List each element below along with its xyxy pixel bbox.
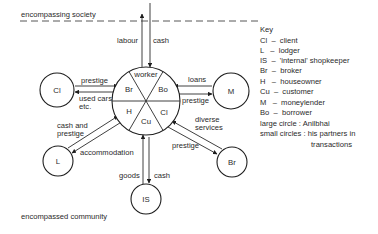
node-lodger: L xyxy=(43,146,73,176)
cash-society-label: cash xyxy=(153,36,169,45)
svg-text:Br: Br xyxy=(228,158,236,167)
diagram-key: Key Cl – client L – lodger IS – 'interna… xyxy=(260,25,355,149)
key-entry: Br – broker xyxy=(260,66,302,75)
key-entry: M – moneylender xyxy=(260,98,325,107)
node-moneylender: M xyxy=(213,73,249,109)
segment-br: Br xyxy=(125,85,133,94)
key-entry: small circles : his partners in xyxy=(260,129,355,138)
accommodation-label: accommodation xyxy=(80,148,134,157)
key-entry: Cl – client xyxy=(260,36,298,45)
key-entry: large circle : Anilbhai xyxy=(260,119,330,128)
node-broker: Br xyxy=(217,147,247,177)
encompassed-community-label: encompassed community xyxy=(21,212,107,221)
segment-cl: Cl xyxy=(160,108,168,117)
segment-cu: Cu xyxy=(141,117,151,126)
key-entry: Cu – customer xyxy=(260,87,314,96)
goods-label: goods xyxy=(119,171,140,180)
svg-text:M: M xyxy=(228,87,235,96)
segment-worker: worker xyxy=(133,70,158,79)
diverse-services-label: services xyxy=(195,123,223,132)
key-entry: Bo – borrower xyxy=(260,108,312,117)
anilbhai-central-circle: worker Bo Cl Cu H Br xyxy=(112,67,180,135)
m-prestige-label: prestige xyxy=(182,96,209,105)
cash-and-prestige-label: prestige xyxy=(57,129,84,138)
node-client: Cl xyxy=(40,73,74,107)
used-cars-etc-label: etc. xyxy=(79,102,91,111)
encompassing-society-label: encompassing society xyxy=(21,10,96,19)
br-prestige-label: prestige xyxy=(172,141,199,150)
key-entry: H – houseowner xyxy=(260,77,322,86)
key-title: Key xyxy=(260,25,273,34)
key-entry: IS – 'internal' shopkeeper xyxy=(260,56,350,65)
key-entry: L – lodger xyxy=(260,46,300,55)
segment-bo: Bo xyxy=(158,85,168,94)
cl-prestige-label: prestige xyxy=(81,76,108,85)
loans-label: loans xyxy=(188,75,206,84)
node-internal-shopkeeper: IS xyxy=(131,184,161,214)
segment-h: H xyxy=(126,107,132,116)
exchange-diagram: encompassing society encompassed communi… xyxy=(0,0,378,234)
svg-text:IS: IS xyxy=(142,195,149,204)
svg-text:L: L xyxy=(56,157,61,166)
key-entry: transactions xyxy=(311,140,352,149)
svg-text:Cl: Cl xyxy=(53,86,61,95)
is-cash-label: cash xyxy=(154,171,170,180)
labour-label: labour xyxy=(117,36,139,45)
